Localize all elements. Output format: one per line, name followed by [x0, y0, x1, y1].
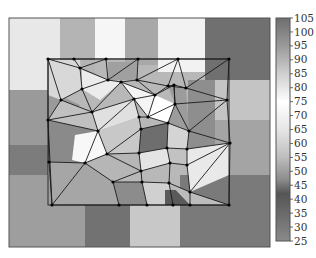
mesh-node	[137, 115, 140, 118]
mesh-node	[139, 169, 142, 172]
colorbar-tick-label: 95	[294, 39, 307, 51]
mesh-node	[47, 160, 50, 163]
field-cell	[85, 205, 130, 247]
mesh-node	[188, 190, 191, 193]
colorbar-tick-label: 50	[294, 165, 307, 177]
colorbar-tick-label: 65	[294, 123, 307, 135]
mesh-node	[166, 84, 169, 87]
mesh-node	[139, 127, 142, 130]
mesh-node	[80, 87, 83, 90]
mesh-node	[117, 203, 120, 206]
colorbar-tick-label: 30	[294, 221, 307, 233]
mesh-node	[176, 57, 179, 60]
colorbar-tick-label: 45	[294, 179, 307, 191]
mesh-node	[165, 146, 168, 149]
mesh-node	[132, 97, 135, 100]
mesh-node	[105, 152, 108, 155]
mesh-node	[96, 129, 99, 132]
colorbar-tick-label: 90	[294, 53, 307, 65]
colorbar: 105100959085807570656055504540353025	[276, 12, 314, 247]
mesh-node	[90, 110, 93, 113]
colorbar-bar	[276, 18, 290, 241]
field-cell	[205, 18, 270, 80]
colorbar-tick-label: 105	[294, 12, 314, 24]
field-cell	[158, 18, 205, 72]
colorbar-tick-label: 75	[294, 95, 307, 107]
mesh-node	[111, 180, 114, 183]
mesh-node	[227, 57, 230, 60]
mesh-node	[137, 151, 140, 154]
mesh-node	[59, 98, 62, 101]
colorbar-tick-label: 70	[294, 109, 307, 121]
mesh-node	[228, 141, 231, 144]
mesh-node	[104, 57, 107, 60]
mesh-node	[166, 121, 169, 124]
colorbar-tick-label: 60	[294, 137, 307, 149]
mesh-node	[225, 98, 228, 101]
mesh-node	[146, 115, 149, 118]
mesh-node	[78, 66, 81, 69]
mesh-node	[184, 86, 187, 89]
mesh-node	[83, 161, 86, 164]
mesh-node	[46, 118, 49, 121]
mesh-node	[227, 203, 230, 206]
mesh-node	[145, 203, 148, 206]
mesh-node	[171, 203, 174, 206]
mesh-node	[185, 163, 188, 166]
colorbar-tick-label: 40	[294, 193, 307, 205]
mesh-node	[187, 129, 190, 132]
field-cell	[9, 145, 48, 175]
mesh-node	[185, 147, 188, 150]
colorbar-tick-label: 80	[294, 81, 307, 93]
mesh-node	[168, 161, 171, 164]
colorbar-tick-label: 85	[294, 67, 307, 79]
colorbar-tick-label: 35	[294, 207, 307, 219]
mesh-node	[153, 93, 156, 96]
colorbar-tick-label: 55	[294, 151, 307, 163]
mesh-node	[50, 203, 53, 206]
mesh-node	[72, 57, 75, 60]
mesh-node	[46, 57, 49, 60]
mesh-node	[136, 57, 139, 60]
figure: 105100959085807570656055504540353025	[0, 0, 316, 258]
mesh-node	[106, 78, 109, 81]
field-cell	[95, 18, 125, 60]
mesh-node	[188, 203, 191, 206]
colorbar-tick-label: 25	[294, 235, 307, 247]
mesh-node	[172, 83, 175, 86]
mesh-node	[173, 102, 176, 105]
field-cell	[130, 205, 180, 247]
field-cell	[125, 18, 158, 65]
mesh-node	[135, 78, 138, 81]
colorbar-ticks: 105100959085807570656055504540353025	[290, 12, 314, 247]
colorbar-tick-label: 100	[294, 26, 314, 38]
mesh-node	[167, 181, 170, 184]
mesh-node	[119, 80, 122, 83]
mesh-node	[140, 180, 143, 183]
